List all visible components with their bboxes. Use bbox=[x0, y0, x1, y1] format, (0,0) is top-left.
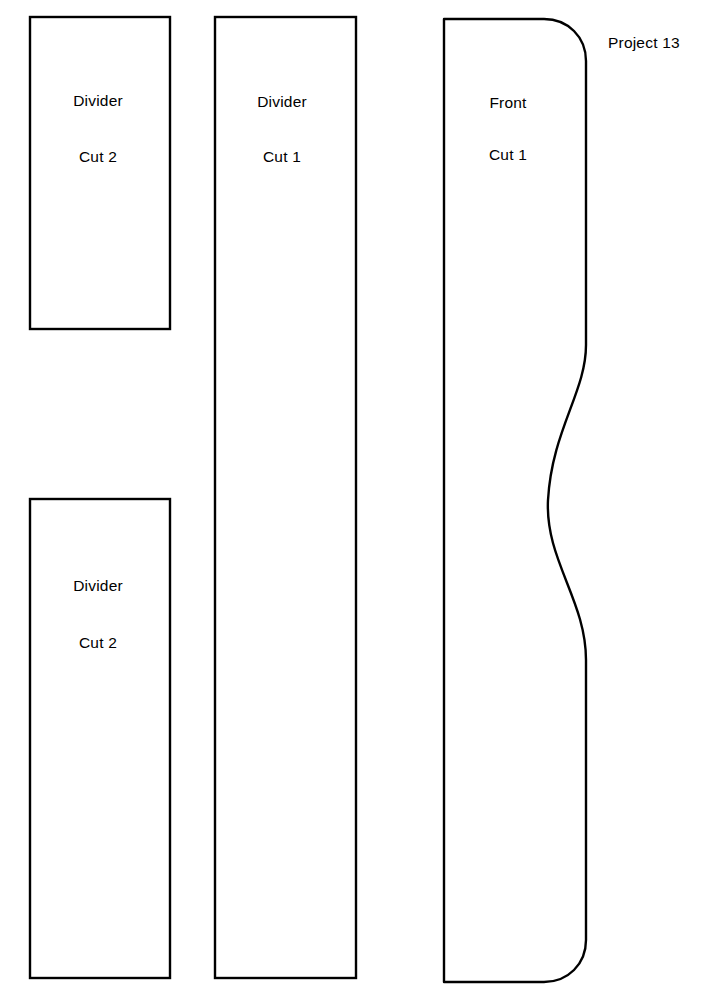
piece-label-divider-lower-left-quantity: Cut 2 bbox=[79, 635, 117, 651]
piece-label-front-right-quantity: Cut 1 bbox=[489, 147, 527, 163]
piece-label-front-right-name: Front bbox=[489, 95, 526, 111]
piece-label-divider-lower-left-name: Divider bbox=[73, 578, 123, 594]
piece-outline-divider-upper-left bbox=[30, 17, 170, 329]
piece-outline-front-right bbox=[444, 19, 586, 982]
piece-label-divider-upper-left-name: Divider bbox=[73, 93, 123, 109]
piece-label-divider-center-quantity: Cut 1 bbox=[263, 149, 301, 165]
piece-outline-divider-lower-left bbox=[30, 499, 170, 978]
piece-label-divider-center-name: Divider bbox=[257, 94, 307, 110]
piece-label-divider-upper-left-quantity: Cut 2 bbox=[79, 149, 117, 165]
pattern-sheet: Project 13 Divider Cut 2 Divider Cut 2 D… bbox=[0, 0, 701, 991]
page-title: Project 13 bbox=[608, 35, 680, 51]
